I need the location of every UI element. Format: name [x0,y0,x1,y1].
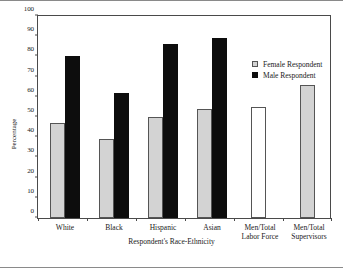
legend-label-female: Female Respondent [263,60,322,69]
bar-asian-female [197,109,212,218]
x-tick-label-hispanic: Hispanic [150,223,177,232]
bar-men-total-supervisors [300,85,315,218]
y-tick-mark [35,176,38,177]
plot-frame: 0 10 20 30 40 50 60 70 80 90 100 [37,15,331,219]
x-axis-title: Respondent's Race-Ethnicity [0,237,343,246]
y-tick-mark [35,35,38,36]
legend-item-male: Male Respondent [252,70,322,80]
y-tick-mark [35,196,38,197]
plot-area: 0 10 20 30 40 50 60 70 80 90 100 [38,16,330,218]
x-tick-mark [283,218,284,221]
y-tick-label: 10 [27,187,38,194]
y-tick-label: 50 [27,107,38,114]
y-tick-label: 0 [31,208,38,215]
x-tick-label-black: Black [105,223,123,232]
y-tick-label: 60 [27,86,38,93]
legend-item-female: Female Respondent [252,59,322,69]
bar-black-male [114,93,129,218]
bar-white-female [50,123,65,218]
y-tick-mark [35,55,38,56]
y-tick-label: 70 [27,66,38,73]
y-tick-mark [35,15,38,16]
y-tick-mark [35,116,38,117]
chart-legend: Female Respondent Male Respondent [252,59,322,81]
legend-swatch-female-icon [252,61,258,67]
x-tick-mark [185,218,186,221]
y-tick-mark [35,95,38,96]
y-tick-label: 90 [27,26,38,33]
x-tick-label-white: White [56,223,74,232]
bar-black-female [99,139,114,218]
y-tick-label: 100 [24,6,38,13]
bar-hispanic-male [163,44,178,218]
y-tick-mark [35,75,38,76]
y-tick-label: 30 [27,147,38,154]
bar-hispanic-female [148,117,163,218]
chart-figure: Percentage 0 10 20 30 40 50 60 70 80 90 [0,0,343,268]
y-tick-label: 20 [27,167,38,174]
y-tick-mark [35,156,38,157]
y-axis-title: Percentage [10,119,18,150]
x-tick-label-asian: Asian [203,223,221,232]
y-tick-label: 40 [27,127,38,134]
bar-white-male [65,56,80,218]
x-tick-mark [38,218,39,221]
y-tick-label: 80 [27,46,38,53]
x-tick-mark [136,218,137,221]
y-tick-mark [35,136,38,137]
x-tick-mark [234,218,235,221]
x-tick-mark [87,218,88,221]
legend-label-male: Male Respondent [263,71,316,80]
bar-men-total-labor-force [251,107,266,218]
bar-asian-male [212,38,227,218]
x-tick-mark [331,218,332,221]
legend-swatch-male-icon [252,72,258,78]
